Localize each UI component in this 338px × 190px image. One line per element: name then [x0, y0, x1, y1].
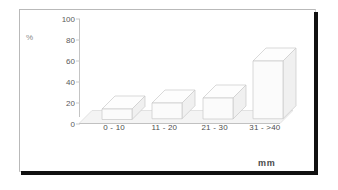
- x-tick-label: 11 - 20: [152, 123, 178, 132]
- x-tick-label: 0 - 10: [103, 123, 125, 132]
- y-tick-mark: [76, 61, 80, 62]
- bar-4: [253, 48, 298, 121]
- bar-1: [102, 96, 147, 122]
- x-tick-label: 21 - 30: [201, 123, 227, 132]
- y-tick-mark: [76, 103, 80, 104]
- y-tick-mark: [76, 82, 80, 83]
- bar-series: [0, 0, 338, 190]
- y-tick-mark: [76, 124, 80, 125]
- y-tick-mark: [76, 40, 80, 41]
- x-tick-label: 31 - >40: [249, 123, 280, 132]
- x-axis-tick-labels: 0 - 1011 - 2021 - 3031 - >40: [79, 123, 293, 137]
- chart-figure: % mm 020406080100 0 - 1011 - 2021 - 3031…: [0, 0, 338, 190]
- plot-area: % mm 020406080100 0 - 1011 - 2021 - 3031…: [0, 0, 338, 190]
- bar-3: [203, 85, 248, 121]
- y-tick-mark: [76, 19, 80, 20]
- bar-2: [152, 90, 197, 121]
